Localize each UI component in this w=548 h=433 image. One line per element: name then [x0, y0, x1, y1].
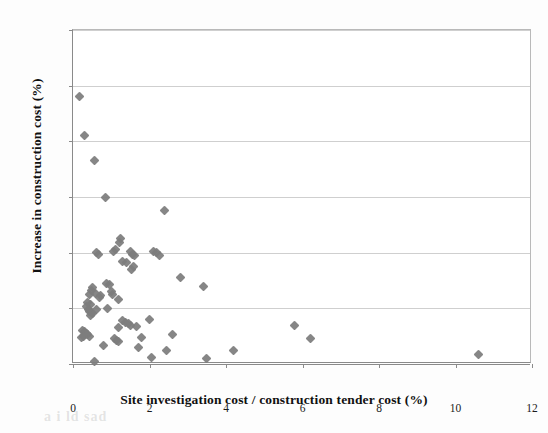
- data-point: [305, 334, 315, 344]
- scatter-chart-figure: Increase in construction cost (%) 020406…: [0, 0, 548, 433]
- gridline-y-20: [73, 308, 530, 309]
- y-tickmark-80: [69, 141, 73, 142]
- x-tickmark-10: [456, 364, 457, 368]
- data-point: [473, 349, 483, 359]
- gridline-y-100: [73, 86, 530, 87]
- data-point: [202, 353, 212, 363]
- gridline-y-80: [73, 141, 530, 142]
- plot-area: 020406080100120024681012: [72, 29, 531, 363]
- data-point: [145, 315, 155, 325]
- gridline-y-60: [73, 197, 530, 198]
- y-tickmark-120: [69, 30, 73, 31]
- data-point: [175, 273, 185, 283]
- x-tickmark-2: [150, 364, 151, 368]
- gridline-y-40: [73, 253, 530, 254]
- data-point: [99, 341, 109, 351]
- x-tickmark-12: [532, 364, 533, 368]
- data-point: [113, 295, 123, 305]
- x-tickmark-6: [303, 364, 304, 368]
- data-point: [167, 330, 177, 340]
- data-point: [160, 206, 170, 216]
- data-point: [229, 345, 239, 355]
- data-point: [162, 345, 172, 355]
- data-point: [290, 320, 300, 330]
- y-axis-title: Increase in construction cost (%): [29, 11, 45, 341]
- y-tickmark-100: [69, 86, 73, 87]
- data-point: [133, 342, 143, 352]
- x-axis-title: Site investigation cost / construction t…: [0, 392, 548, 408]
- data-point: [89, 156, 99, 166]
- data-point: [101, 192, 111, 202]
- x-tickmark-0: [73, 364, 74, 368]
- x-tickmark-4: [226, 364, 227, 368]
- data-point: [102, 303, 112, 313]
- data-point: [75, 92, 85, 102]
- data-point: [80, 131, 90, 141]
- gridline-y-0: [73, 364, 530, 365]
- x-tickmark-8: [379, 364, 380, 368]
- data-point: [137, 333, 147, 343]
- gridline-y-120: [73, 30, 530, 31]
- y-tickmark-40: [69, 253, 73, 254]
- scan-bleed-artifact: a i ld sad: [44, 409, 274, 427]
- y-tickmark-60: [69, 197, 73, 198]
- data-point: [198, 281, 208, 291]
- data-point: [146, 352, 156, 362]
- y-tickmark-20: [69, 308, 73, 309]
